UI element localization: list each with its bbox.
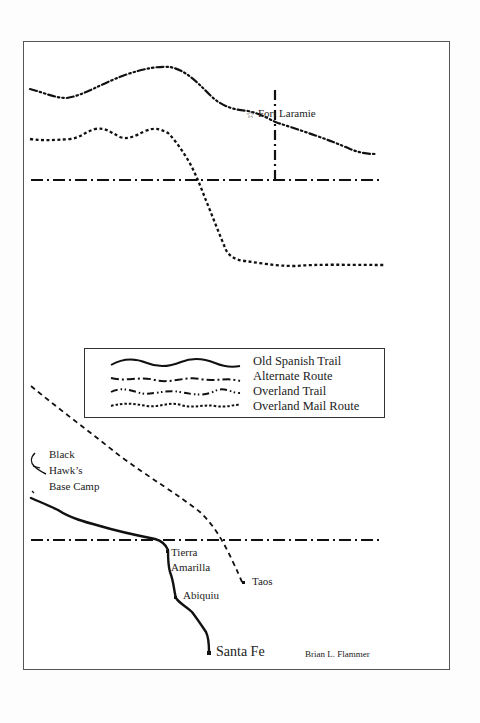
page: ☆ Fort Laramie Black Hawk’s Base Camp Ti… xyxy=(0,0,480,723)
black-hawk-camp-icon xyxy=(32,453,47,474)
legend-symbol-old-spanish-trail xyxy=(111,359,240,367)
label-santa-fe: Santa Fe xyxy=(216,645,265,659)
label-black-hawk-1: Black xyxy=(49,449,75,460)
abiquiu-marker xyxy=(174,596,177,599)
fort-laramie-star-icon: ☆ xyxy=(246,109,255,120)
legend-symbol-overland-mail-route xyxy=(111,404,240,407)
label-black-hawk-2: Hawk’s xyxy=(49,465,83,476)
overland-trail-line xyxy=(30,67,376,154)
legend-label-overland-trail: Overland Trail xyxy=(253,385,326,398)
old-spanish-trail-line xyxy=(31,498,209,652)
credit: Brian L. Flammer xyxy=(305,650,370,659)
legend-label-old-spanish-trail: Old Spanish Trail xyxy=(253,355,341,368)
legend: Old Spanish Trail Alternate Route Overla… xyxy=(84,348,385,418)
legend-label-alternate-route: Alternate Route xyxy=(253,370,333,383)
legend-symbol-alternate-route xyxy=(111,378,240,381)
label-abiquiu: Abiquiu xyxy=(183,590,219,601)
label-taos: Taos xyxy=(252,576,273,587)
label-tierra: Tierra xyxy=(171,547,197,558)
legend-symbol-overland-trail xyxy=(111,389,240,394)
tierra-amarilla-marker xyxy=(166,550,169,553)
taos-marker xyxy=(242,581,245,584)
label-amarilla: Amarilla xyxy=(171,562,210,573)
legend-label-overland-mail-route: Overland Mail Route xyxy=(253,400,359,413)
label-fort-laramie: Fort Laramie xyxy=(258,108,316,119)
black-hawk-mark xyxy=(32,491,34,493)
overland-mail-route-line xyxy=(30,129,385,266)
label-black-hawk-3: Base Camp xyxy=(49,481,99,492)
santa-fe-marker xyxy=(207,651,211,655)
